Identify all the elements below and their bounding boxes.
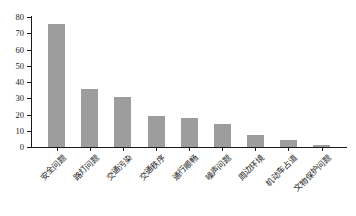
y-axis-tick xyxy=(27,115,31,116)
plot-area xyxy=(31,17,347,147)
bar[interactable] xyxy=(114,97,131,147)
y-axis-tick xyxy=(27,98,31,99)
y-axis-tick-label: 10 xyxy=(0,127,24,136)
x-axis-tick xyxy=(156,147,157,151)
y-axis-tick xyxy=(27,66,31,67)
bar-slot xyxy=(140,17,173,147)
y-axis-tick xyxy=(27,82,31,83)
bar-slot xyxy=(106,17,139,147)
y-axis-tick-label: 50 xyxy=(0,62,24,71)
x-axis-tick-label: 交通秩序 xyxy=(104,154,166,216)
x-axis-tick-label: 通行顺畅 xyxy=(138,154,200,216)
x-axis-tick xyxy=(57,147,58,151)
y-axis-tick-label: 80 xyxy=(0,13,24,22)
bar[interactable] xyxy=(214,124,231,147)
x-axis-tick-label: 文物保护问题 xyxy=(270,154,332,216)
bar[interactable] xyxy=(280,140,297,147)
bar-slot xyxy=(305,17,338,147)
x-axis-tick xyxy=(322,147,323,151)
x-axis-tick-label: 交通污染 xyxy=(71,154,133,216)
bar-slot xyxy=(206,17,239,147)
y-axis-tick-label: 0 xyxy=(0,143,24,152)
x-axis-tick xyxy=(288,147,289,151)
x-axis-tick xyxy=(222,147,223,151)
bar[interactable] xyxy=(48,24,65,148)
x-axis-tick-label: 周边环境 xyxy=(204,154,266,216)
y-axis-tick xyxy=(27,131,31,132)
bar[interactable] xyxy=(247,135,264,147)
x-axis-tick xyxy=(189,147,190,151)
bar-slot xyxy=(239,17,272,147)
bar[interactable] xyxy=(148,116,165,147)
bar-chart: 01020304050607080 安全问题路灯问题交通污染交通秩序通行顺畅噪声… xyxy=(0,0,356,216)
y-axis-tick-label: 40 xyxy=(0,78,24,87)
x-axis-tick xyxy=(90,147,91,151)
bar[interactable] xyxy=(181,118,198,147)
bar-slot xyxy=(73,17,106,147)
bar-slot xyxy=(173,17,206,147)
bar[interactable] xyxy=(81,89,98,148)
y-axis-tick xyxy=(27,17,31,18)
y-axis-tick-label: 60 xyxy=(0,45,24,54)
x-axis-tick-label: 噪声问题 xyxy=(171,154,233,216)
bar-slot xyxy=(272,17,305,147)
x-axis-tick-label: 安全问题 xyxy=(5,154,67,216)
x-axis-tick-label: 路灯问题 xyxy=(38,154,100,216)
bars-layer xyxy=(31,17,347,147)
y-axis-tick xyxy=(27,50,31,51)
x-axis-tick xyxy=(123,147,124,151)
x-axis-tick xyxy=(255,147,256,151)
y-axis-tick xyxy=(27,33,31,34)
bar-slot xyxy=(40,17,73,147)
y-axis-tick-label: 70 xyxy=(0,29,24,38)
y-axis-tick xyxy=(27,147,31,148)
y-axis-tick-label: 30 xyxy=(0,94,24,103)
y-axis-tick-label: 20 xyxy=(0,110,24,119)
x-axis-tick-label: 机动车占道 xyxy=(237,154,299,216)
